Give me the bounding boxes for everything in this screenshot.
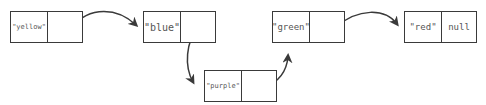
node-pointer [242,71,276,101]
node-purple: "purple" [204,70,277,102]
node-value: "green" [273,12,310,42]
node-pointer [181,12,215,42]
node-blue: "blue" [143,11,216,43]
node-red: "red" null [404,11,477,43]
node-green: "green" [272,11,345,43]
node-value: "blue" [144,12,181,42]
node-yellow: "yellow" [10,11,83,43]
node-value: "purple" [205,71,242,101]
node-value: "red" [405,12,442,42]
node-value: "yellow" [11,12,48,42]
node-pointer [48,12,82,42]
node-null-pointer: null [442,12,476,42]
node-pointer [310,12,344,42]
